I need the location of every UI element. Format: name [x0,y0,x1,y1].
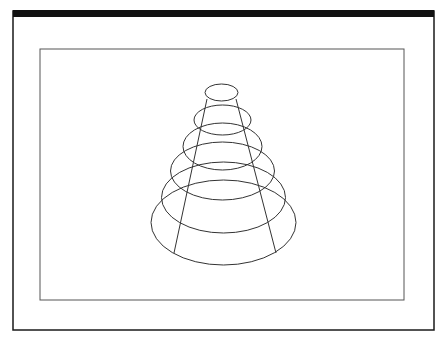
ellipse-ring-6 [151,180,296,265]
ellipse-rings [151,84,296,265]
outer-frame [13,11,434,330]
generator-lines [174,99,276,253]
ellipse-ring-4 [171,142,275,200]
inner-frame [40,49,404,300]
top-bar [13,10,434,17]
generator-line-2 [236,99,276,253]
ellipse-ring-1 [205,84,238,101]
cone-wireframe-figure [0,0,442,340]
generator-line-1 [174,99,207,253]
